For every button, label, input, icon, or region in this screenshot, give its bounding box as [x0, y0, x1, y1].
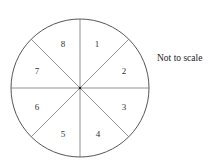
sector-label-3: 3: [122, 102, 127, 112]
sector-label-2: 2: [122, 66, 127, 76]
sector-label-5: 5: [61, 129, 66, 139]
spinner-diagram: [0, 0, 215, 167]
sector-label-8: 8: [61, 39, 66, 49]
sector-label-1: 1: [95, 39, 100, 49]
center-dot: [79, 87, 82, 90]
sector-label-6: 6: [35, 102, 40, 112]
not-to-scale-note: Not to scale: [157, 53, 202, 63]
sector-label-4: 4: [96, 129, 101, 139]
sector-label-7: 7: [35, 66, 40, 76]
